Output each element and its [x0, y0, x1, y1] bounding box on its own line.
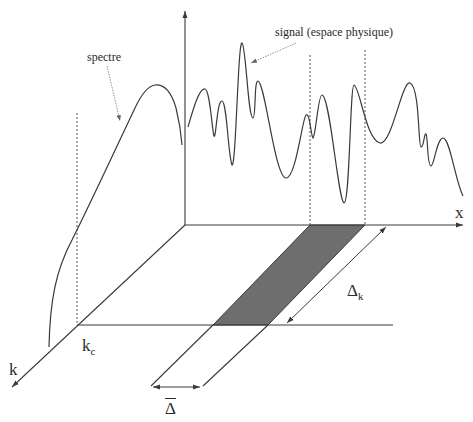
delta-k-main: Δ	[347, 281, 358, 300]
spectrum-pointer	[107, 66, 120, 121]
dotted-guides	[77, 50, 365, 325]
delta-k-subscript: k	[358, 290, 364, 302]
delta-k-label: Δk	[347, 282, 363, 299]
spectrum-curve	[49, 85, 182, 347]
signal-label: signal (espace physique)	[275, 26, 393, 38]
signal-curve	[188, 43, 463, 203]
filter-band	[213, 225, 365, 325]
k-axis	[12, 225, 185, 387]
spectrum-label: spectre	[87, 51, 121, 63]
signal-pointer	[251, 43, 296, 63]
diagram-canvas	[0, 0, 473, 422]
band-extension-lines	[151, 325, 268, 386]
k-axis-label: k	[9, 361, 18, 378]
k-cutoff-main: k	[82, 336, 91, 355]
x-axis-label: x	[455, 204, 464, 221]
delta-bar-label: Δ	[165, 400, 176, 417]
k-cutoff-subscript: c	[91, 345, 96, 357]
k-cutoff-label: kc	[82, 337, 95, 354]
spectral-filtering-diagram: spectre signal (espace physique) x k kc …	[0, 0, 473, 422]
